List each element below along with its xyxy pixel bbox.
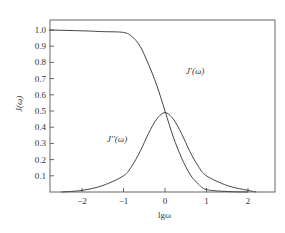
- y-axis-label: J(ω): [14, 96, 24, 112]
- y-tick-label: 0.5: [35, 106, 47, 116]
- y-tick-label: 0.1: [35, 171, 46, 181]
- y-tick-label: 0.4: [35, 122, 47, 132]
- x-tick-label: −2: [77, 196, 87, 206]
- annotation-j-double-prime: J''(ω): [107, 134, 127, 144]
- y-tick-label: 0.9: [35, 41, 47, 51]
- y-tick-label: 0.3: [35, 138, 47, 148]
- x-tick-label: 1: [204, 196, 209, 206]
- j-prime-curve: [49, 30, 248, 192]
- j-double-prime-curve: [61, 113, 256, 192]
- y-tick-label: 0.6: [35, 90, 47, 100]
- chart: 0.10.20.30.40.50.60.70.80.91.0 −2−1012 J…: [0, 0, 285, 233]
- plot-frame: [50, 20, 275, 192]
- y-tick-label: 0.2: [35, 155, 46, 165]
- x-axis-label: lgω: [158, 210, 171, 220]
- y-tick-label: 0.7: [35, 74, 47, 84]
- annotation-j-prime: J'(ω): [186, 66, 204, 76]
- x-tick-label: 2: [246, 196, 251, 206]
- y-axis: 0.10.20.30.40.50.60.70.80.91.0: [35, 25, 54, 181]
- x-tick-label: 0: [163, 196, 168, 206]
- series-lines: [49, 30, 256, 192]
- y-tick-label: 0.8: [35, 57, 47, 67]
- y-tick-label: 1.0: [35, 25, 47, 35]
- x-axis: −2−1012: [77, 188, 250, 206]
- x-tick-label: −1: [119, 196, 129, 206]
